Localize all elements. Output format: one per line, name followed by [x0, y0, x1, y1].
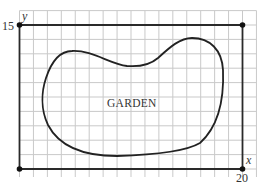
x-tick-label-20: 20 [236, 171, 248, 185]
garden-coordinate-diagram: 15 y 20 x GARDEN [0, 0, 260, 191]
point-0-15 [17, 22, 23, 28]
point-0-0 [17, 166, 23, 172]
grid [20, 11, 257, 177]
y-tick-label-15: 15 [2, 19, 14, 33]
y-axis-label: y [21, 9, 28, 23]
garden-region-label: GARDEN [107, 97, 157, 109]
point-20-15 [240, 22, 246, 28]
x-axis-label: x [245, 153, 252, 167]
